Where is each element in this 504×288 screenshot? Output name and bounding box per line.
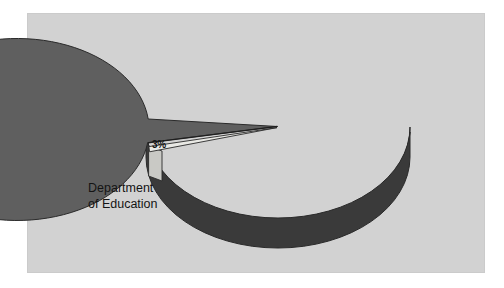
- data-label-percent: 3%: [152, 140, 166, 150]
- pie-chart-graphic: [0, 0, 504, 288]
- screenshot-canvas: 3% Department of Education: [0, 0, 504, 288]
- category-label-line-2: of Education: [88, 196, 158, 212]
- category-label-line-1: Department: [88, 180, 158, 196]
- category-label-department-of-education: Department of Education: [88, 180, 158, 212]
